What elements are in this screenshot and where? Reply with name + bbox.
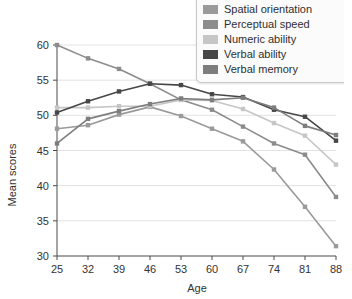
y-tick-label: 60 bbox=[37, 39, 49, 51]
legend-item[interactable]: Verbal ability bbox=[203, 47, 341, 62]
series-line bbox=[57, 100, 336, 165]
data-point-marker bbox=[334, 138, 338, 142]
data-point-marker bbox=[272, 141, 276, 145]
data-point-marker bbox=[241, 139, 245, 143]
legend-item-label: Spatial orientation bbox=[224, 3, 312, 16]
x-axis-title: Age bbox=[187, 282, 207, 294]
data-point-marker bbox=[303, 134, 307, 138]
data-point-marker bbox=[303, 124, 307, 128]
data-point-marker bbox=[272, 121, 276, 125]
x-axis-ticks: 25323946536067748188 bbox=[51, 256, 342, 275]
x-tick-label: 53 bbox=[175, 263, 187, 275]
legend-item[interactable]: Verbal memory bbox=[203, 62, 341, 77]
x-tick-label: 60 bbox=[206, 263, 218, 275]
series-numeric-ability bbox=[55, 98, 338, 167]
data-point-marker bbox=[117, 109, 121, 113]
legend-item-label: Verbal ability bbox=[224, 48, 286, 61]
legend-color-swatch bbox=[203, 50, 218, 59]
y-tick-label: 45 bbox=[37, 145, 49, 157]
data-point-marker bbox=[55, 141, 59, 145]
x-tick-label: 46 bbox=[144, 263, 156, 275]
data-point-marker bbox=[210, 127, 214, 131]
data-point-marker bbox=[210, 92, 214, 96]
data-point-marker bbox=[272, 167, 276, 171]
data-point-marker bbox=[303, 205, 307, 209]
data-point-marker bbox=[55, 105, 59, 109]
legend-color-swatch bbox=[203, 35, 218, 44]
legend-color-swatch bbox=[203, 5, 218, 14]
x-tick-label: 32 bbox=[82, 263, 94, 275]
data-point-marker bbox=[86, 117, 90, 121]
data-point-marker bbox=[86, 56, 90, 60]
y-tick-label: 55 bbox=[37, 74, 49, 86]
data-point-marker bbox=[241, 107, 245, 111]
data-point-marker bbox=[86, 105, 90, 109]
data-point-marker bbox=[86, 123, 90, 127]
data-point-marker bbox=[334, 195, 338, 199]
data-point-marker bbox=[55, 127, 59, 131]
data-point-marker bbox=[179, 96, 183, 100]
data-point-marker bbox=[55, 110, 59, 114]
data-point-marker bbox=[210, 108, 214, 112]
x-tick-label: 81 bbox=[299, 263, 311, 275]
chart-legend: Spatial orientationPerceptual speedNumer… bbox=[196, 0, 348, 83]
data-point-marker bbox=[334, 133, 338, 137]
series-spatial-orientation bbox=[55, 105, 338, 249]
legend-item-label: Verbal memory bbox=[224, 63, 298, 76]
legend-item-label: Perceptual speed bbox=[224, 18, 310, 31]
data-point-marker bbox=[334, 162, 338, 166]
data-point-marker bbox=[303, 115, 307, 119]
x-tick-label: 74 bbox=[268, 263, 280, 275]
y-axis-title: Mean scores bbox=[6, 143, 18, 206]
legend-item[interactable]: Numeric ability bbox=[203, 32, 341, 47]
data-point-marker bbox=[179, 83, 183, 87]
legend-item[interactable]: Perceptual speed bbox=[203, 17, 341, 32]
data-point-marker bbox=[117, 104, 121, 108]
right-edge-margin bbox=[344, 0, 352, 299]
y-tick-label: 35 bbox=[37, 215, 49, 227]
data-point-marker bbox=[303, 153, 307, 157]
y-axis-ticks: 30354045505560 bbox=[37, 39, 57, 262]
x-tick-label: 67 bbox=[237, 263, 249, 275]
y-tick-label: 50 bbox=[37, 109, 49, 121]
data-point-marker bbox=[179, 114, 183, 118]
series-verbal-ability bbox=[55, 81, 338, 142]
data-point-marker bbox=[148, 102, 152, 106]
x-tick-label: 25 bbox=[51, 263, 63, 275]
data-point-marker bbox=[86, 99, 90, 103]
y-tick-label: 40 bbox=[37, 180, 49, 192]
legend-color-swatch bbox=[203, 20, 218, 29]
data-point-marker bbox=[272, 105, 276, 109]
data-point-marker bbox=[241, 124, 245, 128]
data-point-marker bbox=[117, 67, 121, 71]
data-point-marker bbox=[210, 98, 214, 102]
y-tick-label: 30 bbox=[37, 250, 49, 262]
data-point-marker bbox=[334, 244, 338, 248]
legend-item-label: Numeric ability bbox=[224, 33, 296, 46]
legend-color-swatch bbox=[203, 65, 218, 74]
data-point-marker bbox=[117, 89, 121, 93]
x-tick-label: 39 bbox=[113, 263, 125, 275]
x-tick-label: 88 bbox=[330, 263, 342, 275]
cognitive-aging-line-chart: 30354045505560 25323946536067748188 Mean… bbox=[0, 0, 352, 299]
legend-item[interactable]: Spatial orientation bbox=[203, 2, 341, 17]
data-point-marker bbox=[55, 43, 59, 47]
data-point-marker bbox=[148, 81, 152, 85]
data-point-marker bbox=[241, 96, 245, 100]
series-line bbox=[57, 107, 336, 246]
series-verbal-memory bbox=[55, 96, 338, 146]
